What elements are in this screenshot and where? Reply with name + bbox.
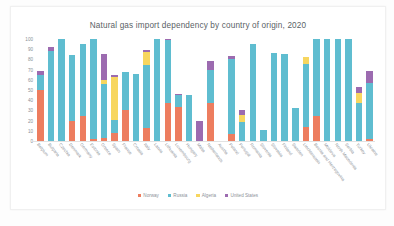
stacked-bar[interactable] bbox=[250, 44, 257, 141]
stacked-bar[interactable] bbox=[335, 39, 342, 141]
y-axis-tick: 100 bbox=[25, 37, 33, 42]
stacked-bar[interactable] bbox=[111, 75, 118, 141]
stacked-bar[interactable] bbox=[345, 39, 352, 141]
legend-item-norway[interactable]: Norway bbox=[138, 193, 159, 198]
bar-slot bbox=[279, 39, 290, 141]
bar-segment-russia bbox=[356, 103, 363, 141]
bar-segment-russia bbox=[111, 120, 118, 133]
bar-slot bbox=[237, 39, 248, 141]
legend-item-united-states[interactable]: United States bbox=[225, 193, 258, 198]
x-label-slot: Poland bbox=[226, 141, 237, 191]
bar-slot bbox=[56, 39, 67, 141]
bar-slot bbox=[163, 39, 174, 141]
bar-slot bbox=[301, 39, 312, 141]
x-label-slot: Slovakia bbox=[269, 141, 280, 191]
x-label-slot: Hungary bbox=[184, 141, 195, 191]
stacked-bar[interactable] bbox=[207, 61, 214, 141]
x-label-slot: Greece bbox=[99, 141, 110, 191]
bar-segment-united-states bbox=[366, 71, 373, 83]
bar-segment-norway bbox=[111, 133, 118, 141]
stacked-bar[interactable] bbox=[175, 94, 182, 141]
stacked-bar[interactable] bbox=[281, 54, 288, 141]
x-label-slot: Bulgaria bbox=[46, 141, 57, 191]
x-label-slot: Belgium bbox=[35, 141, 46, 191]
stacked-bar[interactable] bbox=[90, 39, 97, 141]
bar-slot bbox=[46, 39, 57, 141]
x-axis-labels: BelgiumBulgariaCzechiaDenmarkGermanyEsto… bbox=[35, 141, 375, 191]
stacked-bar[interactable] bbox=[313, 39, 320, 141]
bar-segment-united-states bbox=[207, 61, 214, 69]
bar-segment-norway bbox=[303, 127, 310, 141]
stacked-bar[interactable] bbox=[366, 71, 373, 141]
legend-item-russia[interactable]: Russia bbox=[168, 193, 187, 198]
bar-segment-russia bbox=[366, 83, 373, 139]
bar-slot bbox=[290, 39, 301, 141]
stacked-bar[interactable] bbox=[324, 39, 331, 141]
stacked-bar[interactable] bbox=[101, 54, 108, 141]
bar-segment-russia bbox=[133, 74, 140, 141]
bar-segment-russia bbox=[207, 70, 214, 104]
legend-swatch bbox=[168, 194, 171, 197]
x-label-slot: Czechia bbox=[56, 141, 67, 191]
stacked-bar[interactable] bbox=[37, 71, 44, 141]
bar-segment-russia bbox=[90, 39, 97, 139]
stacked-bar[interactable] bbox=[143, 50, 150, 141]
bar-slot bbox=[343, 39, 354, 141]
x-label-slot: Denmark bbox=[67, 141, 78, 191]
x-label-slot: Austria bbox=[216, 141, 227, 191]
bar-slot bbox=[226, 39, 237, 141]
stacked-bar[interactable] bbox=[165, 39, 172, 141]
stacked-bar[interactable] bbox=[58, 39, 65, 141]
stacked-bar[interactable] bbox=[271, 53, 278, 141]
bar-segment-russia bbox=[186, 95, 193, 141]
stacked-bar[interactable] bbox=[154, 39, 161, 141]
x-label-slot: North Macedonia bbox=[333, 141, 344, 191]
bar-segment-norway bbox=[37, 90, 44, 141]
legend-swatch bbox=[138, 194, 141, 197]
x-label-slot: France bbox=[120, 141, 131, 191]
y-axis-tick: 90 bbox=[28, 47, 33, 52]
stacked-bar[interactable] bbox=[196, 121, 203, 141]
bar-segment-norway bbox=[122, 110, 129, 141]
x-label-slot: Germany bbox=[78, 141, 89, 191]
y-axis-tick: 60 bbox=[28, 77, 33, 82]
plot-area: 1009080706050403020100 bbox=[35, 39, 375, 141]
bar-slot bbox=[35, 39, 46, 141]
bar-segment-russia bbox=[345, 39, 352, 141]
x-label-slot: Netherlands bbox=[205, 141, 216, 191]
stacked-bar[interactable] bbox=[80, 44, 87, 141]
chart-title: Natural gas import dependency by country… bbox=[11, 21, 385, 30]
bar-segment-united-states bbox=[196, 121, 203, 141]
y-axis-tick: 20 bbox=[28, 118, 33, 123]
legend-item-algeria[interactable]: Algeria bbox=[196, 193, 216, 198]
bar-segment-russia bbox=[58, 39, 65, 141]
x-label-slot: Croatia bbox=[131, 141, 142, 191]
x-label-slot: Ukraine bbox=[364, 141, 375, 191]
bar-segment-russia bbox=[303, 64, 310, 127]
x-label-slot: Finland bbox=[279, 141, 290, 191]
stacked-bar[interactable] bbox=[260, 130, 267, 141]
stacked-bar[interactable] bbox=[133, 74, 140, 141]
bar-slot bbox=[269, 39, 280, 141]
stacked-bar[interactable] bbox=[228, 56, 235, 141]
legend-swatch bbox=[225, 194, 228, 197]
stacked-bar[interactable] bbox=[69, 55, 76, 141]
bar-segment-russia bbox=[324, 39, 331, 141]
x-label-slot: Lithuania bbox=[163, 141, 174, 191]
legend-label: Norway bbox=[143, 193, 159, 198]
bar-segment-russia bbox=[143, 65, 150, 128]
stacked-bar[interactable] bbox=[186, 95, 193, 141]
stacked-bar[interactable] bbox=[356, 87, 363, 141]
bar-slot bbox=[248, 39, 259, 141]
stacked-bar[interactable] bbox=[48, 47, 55, 141]
stacked-bar[interactable] bbox=[292, 108, 299, 141]
stacked-bar[interactable] bbox=[239, 110, 246, 141]
y-axis: 1009080706050403020100 bbox=[17, 39, 33, 141]
stacked-bar[interactable] bbox=[122, 72, 129, 141]
x-axis-label: Italy bbox=[143, 142, 152, 151]
bar-group bbox=[35, 39, 375, 141]
stacked-bar[interactable] bbox=[303, 57, 310, 141]
bar-segment-norway bbox=[228, 134, 235, 141]
bar-slot bbox=[216, 39, 227, 141]
bar-segment-russia bbox=[271, 53, 278, 141]
